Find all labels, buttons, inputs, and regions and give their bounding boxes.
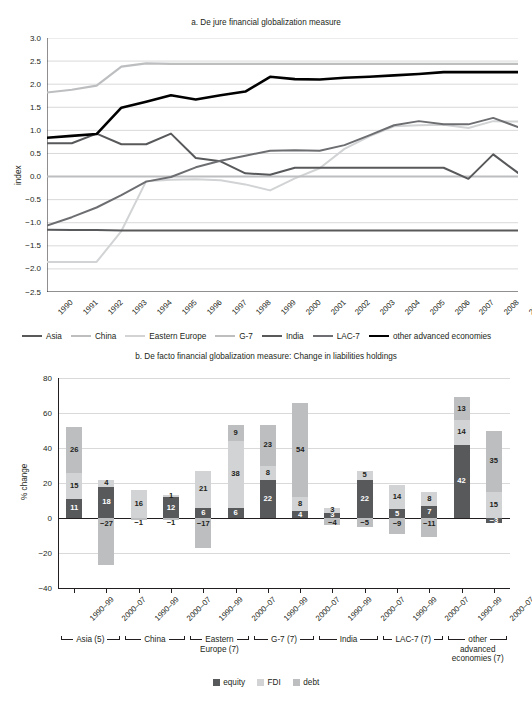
panel-b-bar-value-label: 26	[60, 446, 88, 454]
panel-a-legend-item[interactable]: India	[262, 332, 304, 341]
panel-b-bar-value-label: −27	[91, 520, 121, 528]
panel-a-y-tick: −1.0	[8, 218, 41, 227]
panel-b-bar-value-label: 4	[92, 479, 120, 487]
panel-b-x-tick: 2000–07	[185, 595, 213, 623]
legend-swatch-icon	[369, 335, 389, 338]
panel-b-bar-value-label: 4	[286, 511, 314, 519]
panel-a-x-tick: 1999	[279, 298, 298, 317]
panel-b-bar-value-label: 6	[189, 509, 217, 517]
panel-a-legend-label: Asia	[46, 332, 62, 341]
panel-b-bar-value-label: 15	[480, 501, 508, 509]
panel-b-bar-value-label: 35	[480, 457, 508, 465]
panel-b-bar-value-label: 12	[157, 504, 185, 512]
panel-b-x-tick: 1990–99	[88, 595, 116, 623]
panel-b-x-tickmark	[74, 588, 75, 593]
panel-b-x-tick: 2000–07	[379, 595, 407, 623]
panel-a-y-tick: −2.0	[8, 264, 41, 273]
panel-a-y-tick: −0.5	[8, 195, 41, 204]
panel-a-series-line	[47, 230, 518, 231]
panel-b-x-tickmark	[365, 588, 366, 593]
panel-a-x-tick: 1994	[155, 298, 174, 317]
panel-a-legend-item[interactable]: China	[71, 332, 116, 341]
panel-b-bar-value-label: 7	[415, 508, 443, 516]
panel-b-x-tick: 2000–07	[314, 595, 342, 623]
panel-b-x-tickmark	[332, 588, 333, 593]
panel-b-group-label-line: Asia (5)	[73, 635, 107, 645]
panel-b-x-tick: 1990–99	[475, 595, 503, 623]
panel-b-x-tick: 1990–99	[282, 595, 310, 623]
panel-b-x-tickmark	[171, 588, 172, 593]
panel-b-bar-value-label: 16	[125, 500, 153, 508]
panel-a-y-tick: 0.5	[8, 149, 41, 158]
panel-b-x-tick: 2000–07	[443, 595, 471, 623]
panel-b-legend: equityFDIdebt	[0, 678, 532, 687]
panel-b-y-tick: 40	[20, 444, 52, 453]
panel-a-legend-item[interactable]: Eastern Europe	[125, 332, 206, 341]
panel-a-legend-label: other advanced economies	[393, 332, 491, 341]
panel-b-bar-value-label: 15	[60, 482, 88, 490]
panel-b-y-tick: 20	[20, 479, 52, 488]
panel-a-series-line	[47, 134, 518, 179]
panel-b-legend-item[interactable]: equity	[213, 678, 245, 687]
panel-a-y-tick: 2.5	[8, 57, 41, 66]
panel-a-legend-item[interactable]: LAC-7	[313, 332, 360, 341]
panel-a-y-tick: 0.0	[8, 172, 41, 181]
panel-b-bar-value-label: 21	[189, 485, 217, 493]
panel-b-bar-value-label: 14	[383, 493, 411, 501]
panel-a-legend-label: India	[286, 332, 304, 341]
panel-b-y-tick: 0	[20, 514, 52, 523]
panel-b-bar-value-label: 5	[351, 471, 379, 479]
panel-b-x-tickmark	[397, 588, 398, 593]
panel-b-group-label-line: LAC-7 (7)	[392, 635, 434, 645]
panel-b-y-tick: 60	[20, 409, 52, 418]
panel-b-bar-value-label: 54	[286, 446, 314, 454]
panel-a-x-tick: 2000	[304, 298, 323, 317]
panel-a-y-tick: 1.0	[8, 126, 41, 135]
panel-a-legend-item[interactable]: G-7	[215, 332, 253, 341]
panel-a-y-tick: −1.5	[8, 241, 41, 250]
panel-b-plot-area: 111526184−2716−1121−1621−176389228234854…	[58, 378, 510, 588]
panel-a-legend-label: G-7	[239, 332, 253, 341]
panel-a-legend-item[interactable]: Asia	[22, 332, 62, 341]
panel-b-y-tick: −40	[20, 584, 52, 593]
panel-b-x-tickmark	[203, 588, 204, 593]
panel-b-y-axis	[58, 378, 59, 588]
panel-b-group-label: EasternEurope (7)	[190, 635, 249, 654]
panel-b-group-label: LAC-7 (7)	[383, 635, 442, 645]
panel-a-line-svg	[47, 38, 518, 292]
panel-b-legend-label: debt	[303, 678, 319, 687]
panel-a-legend-item[interactable]: other advanced economies	[369, 332, 491, 341]
panel-b-bar-value-label: 22	[254, 495, 282, 503]
panel-b-gridline	[58, 553, 510, 554]
panel-a-x-tick: 2006	[453, 298, 472, 317]
panel-b-group-label-line: India	[337, 635, 361, 645]
panel-b-group-label: Asia (5)	[61, 635, 120, 645]
panel-b-bar-value-label: −4	[317, 519, 347, 527]
panel-b-group-label: G-7 (7)	[254, 635, 313, 645]
panel-a-x-tick: 2004	[403, 298, 422, 317]
legend-swatch-icon	[22, 335, 42, 337]
legend-swatch-icon	[125, 335, 145, 337]
panel-a-x-tick: 2008	[502, 298, 521, 317]
legend-swatch-icon	[257, 679, 264, 686]
panel-b-bar-value-label: 14	[448, 428, 476, 436]
panel-b-bar-value-label: −5	[350, 519, 380, 527]
panel-b-legend-item[interactable]: FDI	[257, 678, 281, 687]
panel-b-bar-value-label: 22	[351, 495, 379, 503]
panel-b-bar-value-label: 1	[157, 492, 185, 500]
panel-b-legend-item[interactable]: debt	[293, 678, 319, 687]
panel-b-bar-value-label: 5	[383, 510, 411, 518]
panel-a-x-tick: 2009	[527, 298, 532, 317]
panel-a-x-tick: 1995	[180, 298, 199, 317]
panel-b-bar-value-label: 42	[448, 477, 476, 485]
panel-b-x-tick: 2000–07	[249, 595, 277, 623]
panel-a-legend: AsiaChinaEastern EuropeG-7IndiaLAC-7othe…	[22, 329, 522, 343]
panel-b-x-tickmark	[106, 588, 107, 593]
panel-a-y-tick: 2.0	[8, 80, 41, 89]
panel-b-title: b. De facto financial globalization meas…	[0, 352, 532, 361]
panel-b-x-tickmark	[139, 588, 140, 593]
panel-a-legend-label: Eastern Europe	[149, 332, 206, 341]
legend-swatch-icon	[313, 335, 333, 337]
panel-b-gridline	[58, 448, 510, 449]
panel-b-bar-value-label: −1	[156, 519, 186, 527]
